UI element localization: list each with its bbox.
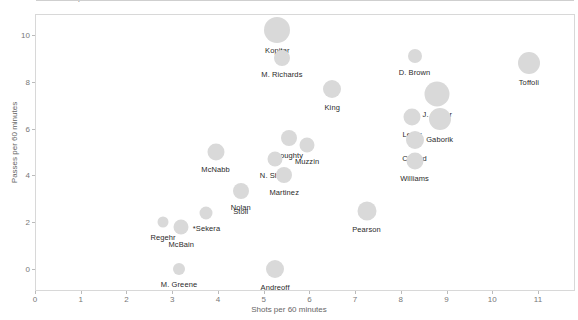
x-tick-mark xyxy=(538,291,539,294)
data-point-label: Pearson xyxy=(352,225,381,234)
data-point-bubble[interactable] xyxy=(207,144,224,161)
data-point-bubble[interactable] xyxy=(357,201,376,220)
scatter-chart: Shots and Passes per 60 minutes 0246810 … xyxy=(0,0,578,320)
data-point-label: *Sekera xyxy=(193,224,220,233)
data-point-label: D. Brown xyxy=(399,68,431,77)
x-tick-label: 4 xyxy=(208,295,228,304)
x-tick-label: 3 xyxy=(162,295,182,304)
x-tick-mark xyxy=(447,291,448,294)
y-tick-mark xyxy=(32,175,35,176)
data-point-label: McNabb xyxy=(201,165,230,174)
y-tick-mark xyxy=(32,35,35,36)
y-tick-mark xyxy=(32,129,35,130)
x-tick-mark xyxy=(355,291,356,294)
data-point-bubble[interactable] xyxy=(408,49,422,63)
data-point-bubble[interactable] xyxy=(425,81,450,106)
data-point-label: M. Greene xyxy=(161,280,197,289)
x-tick-label: 1 xyxy=(71,295,91,304)
x-tick-label: 0 xyxy=(25,295,45,304)
y-tick-label: 2 xyxy=(8,218,30,227)
x-tick-mark xyxy=(218,291,219,294)
data-point-bubble[interactable] xyxy=(158,217,169,228)
data-point-label: Williams xyxy=(400,174,429,183)
data-point-bubble[interactable] xyxy=(404,108,421,125)
x-tick-label: 5 xyxy=(254,295,274,304)
panel-top-border xyxy=(35,14,575,15)
data-point-bubble[interactable] xyxy=(281,130,297,146)
x-tick-label: 7 xyxy=(345,295,365,304)
x-tick-label: 9 xyxy=(437,295,457,304)
data-point-bubble[interactable] xyxy=(233,183,249,199)
y-tick-label: 0 xyxy=(8,265,30,274)
y-tick-mark xyxy=(32,82,35,83)
data-point-bubble[interactable] xyxy=(173,263,185,275)
y-tick-mark xyxy=(32,222,35,223)
panel-right-border xyxy=(574,14,575,290)
data-point-label: King xyxy=(325,103,340,112)
x-tick-mark xyxy=(172,291,173,294)
y-axis-title: Passes per 60 minutes xyxy=(10,73,19,213)
data-point-bubble[interactable] xyxy=(266,260,284,278)
data-point-label: M. Richards xyxy=(261,70,302,79)
data-point-label: Martinez xyxy=(269,188,299,197)
data-point-bubble[interactable] xyxy=(429,108,451,130)
y-tick-mark xyxy=(32,269,35,270)
zero-reference-line xyxy=(36,0,574,1)
data-point-bubble[interactable] xyxy=(406,131,424,149)
data-point-label: Muzzin xyxy=(295,157,319,166)
data-point-label: Andreoff xyxy=(261,283,290,292)
data-point-bubble[interactable] xyxy=(268,152,283,167)
data-point-bubble[interactable] xyxy=(518,52,540,74)
y-axis-spine xyxy=(35,14,36,290)
x-tick-mark xyxy=(309,291,310,294)
data-point-bubble[interactable] xyxy=(264,17,290,43)
y-tick-label: 10 xyxy=(8,31,30,40)
data-point-bubble[interactable] xyxy=(274,50,290,66)
data-point-bubble[interactable] xyxy=(300,137,315,152)
data-point-label: Gaborik xyxy=(426,135,453,144)
data-point-bubble[interactable] xyxy=(174,219,189,234)
x-tick-mark xyxy=(126,291,127,294)
x-tick-mark xyxy=(81,291,82,294)
x-tick-label: 10 xyxy=(482,295,502,304)
x-tick-mark xyxy=(401,291,402,294)
data-point-bubble[interactable] xyxy=(406,153,423,170)
data-point-label: Stoll xyxy=(233,207,248,216)
data-point-bubble[interactable] xyxy=(200,206,213,219)
data-point-bubble[interactable] xyxy=(276,167,292,183)
data-point-bubble[interactable] xyxy=(323,80,341,98)
data-point-label: McBain xyxy=(169,240,195,249)
data-point-label: Toffoli xyxy=(519,78,539,87)
x-tick-label: 8 xyxy=(391,295,411,304)
x-axis-title: Shots per 60 minutes xyxy=(0,305,578,314)
x-tick-mark xyxy=(35,291,36,294)
x-tick-label: 11 xyxy=(528,295,548,304)
x-tick-mark xyxy=(492,291,493,294)
x-tick-label: 6 xyxy=(299,295,319,304)
panel-bottom-border xyxy=(35,290,575,291)
x-tick-label: 2 xyxy=(116,295,136,304)
